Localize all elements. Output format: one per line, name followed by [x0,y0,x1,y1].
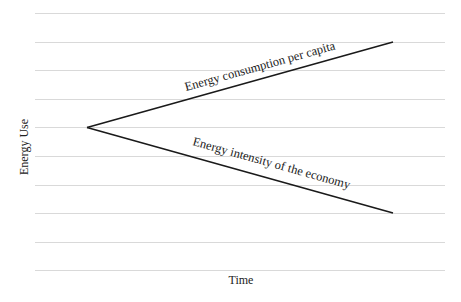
upper-line-label: Energy consumption per capita [183,38,337,93]
x-axis-label: Time [229,273,254,287]
energy-consumption-line [87,42,393,128]
gridlines [35,14,445,271]
energy-intensity-line [87,128,393,214]
y-axis-label: Energy Use [17,119,31,175]
diagram-figure: Energy consumption per capita Energy int… [0,0,461,302]
